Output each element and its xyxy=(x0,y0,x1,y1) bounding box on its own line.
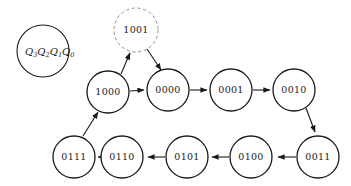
transition-0010-to-0011 xyxy=(306,108,315,132)
state-node-1000[interactable]: 1000 xyxy=(87,71,129,113)
state-label-0000: 0000 xyxy=(155,84,180,95)
state-diagram-figure: Q3Q2Q1Q0 1001100000000001001000110100010… xyxy=(0,0,351,186)
state-label-0010: 0010 xyxy=(281,84,306,95)
state-label-0001: 0001 xyxy=(218,84,243,95)
state-node-0101[interactable]: 0101 xyxy=(166,136,208,178)
transition-0111-to-1000 xyxy=(83,112,98,136)
transition-1000-to-0000 xyxy=(130,90,144,91)
state-label-0100: 0100 xyxy=(238,151,263,162)
state-node-0000[interactable]: 0000 xyxy=(147,69,189,111)
state-node-1001[interactable]: 1001 xyxy=(114,8,158,52)
state-nodes: 1001100000000001001000110100010101100111 xyxy=(53,8,339,178)
state-label-1000: 1000 xyxy=(95,86,120,97)
state-bit-order-legend: Q3Q2Q1Q0 xyxy=(17,25,74,77)
state-label-0111: 0111 xyxy=(61,151,86,162)
legend-q2: Q xyxy=(37,46,45,57)
state-node-0011[interactable]: 0011 xyxy=(297,136,339,178)
state-label-0110: 0110 xyxy=(109,151,134,162)
state-node-0111[interactable]: 0111 xyxy=(53,136,95,178)
legend-text: Q3Q2Q1Q0 xyxy=(25,46,74,59)
legend-q0: Q xyxy=(62,46,70,57)
legend-q0-subscript: 0 xyxy=(70,51,74,59)
legend-q3: Q xyxy=(25,46,33,57)
state-node-0001[interactable]: 0001 xyxy=(210,69,252,111)
diagram-canvas: Q3Q2Q1Q0 1001100000000001001000110100010… xyxy=(0,0,351,186)
state-node-0110[interactable]: 0110 xyxy=(101,136,143,178)
legend-q1: Q xyxy=(50,46,58,57)
transition-1001-to-0000 xyxy=(147,49,161,70)
state-label-0101: 0101 xyxy=(174,151,199,162)
transition-1000-to-1001 xyxy=(121,53,130,74)
state-label-0011: 0011 xyxy=(305,151,330,162)
state-label-1001: 1001 xyxy=(123,24,148,35)
state-node-0010[interactable]: 0010 xyxy=(273,69,315,111)
state-node-0100[interactable]: 0100 xyxy=(230,136,272,178)
